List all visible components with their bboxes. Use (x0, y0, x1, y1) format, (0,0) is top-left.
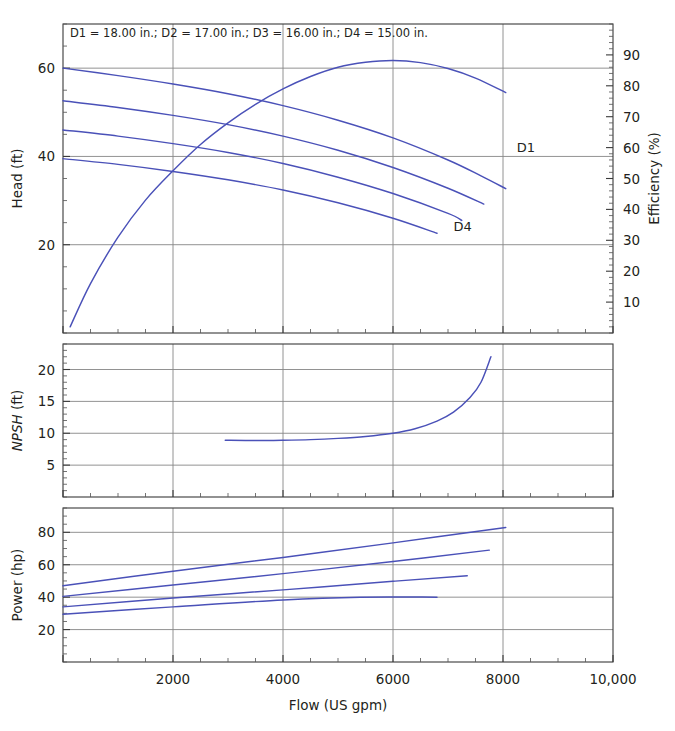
x-tick-label: 6000 (376, 671, 410, 687)
y2-tick-label: 90 (623, 47, 640, 63)
y-axis-title: Head (ft) (9, 149, 25, 209)
curve-d1-head (63, 68, 506, 189)
y2-tick-label: 20 (623, 263, 640, 279)
curve-d4-head (63, 159, 437, 234)
y2-tick-label: 40 (623, 201, 640, 217)
panel-npsh: 5101520NPSH (ft) (9, 344, 613, 497)
panel-power: 20406080Power (hp)200040006000800010,000… (9, 508, 637, 713)
y-axis-title: Power (hp) (9, 549, 25, 622)
y-tick-label: 20 (38, 237, 55, 253)
plot-frame (63, 24, 613, 333)
y2-tick-label: 30 (623, 232, 640, 248)
y-tick-label: 40 (38, 148, 55, 164)
pump-performance-figure: 204060Head (ft)102030405060708090Efficie… (0, 0, 675, 731)
y-tick-label: 20 (38, 622, 55, 638)
y2-tick-label: 10 (623, 294, 640, 310)
y-tick-label: 60 (38, 60, 55, 76)
x-axis-title: Flow (US gpm) (289, 697, 388, 713)
y-tick-label: 5 (46, 457, 55, 473)
panel-head-efficiency: 204060Head (ft)102030405060708090Efficie… (9, 24, 662, 333)
curve-label-d4: D4 (454, 219, 472, 234)
x-tick-label: 2000 (156, 671, 190, 687)
diameter-note: D1 = 18.00 in.; D2 = 17.00 in.; D3 = 16.… (70, 26, 428, 40)
x-tick-label: 8000 (486, 671, 520, 687)
y-axis-title: NPSH (ft) (9, 390, 25, 452)
y-tick-label: 15 (38, 393, 55, 409)
y-tick-label: 80 (38, 524, 55, 540)
y2-axis-title: Efficiency (%) (646, 132, 662, 225)
x-tick-label: 10,000 (589, 671, 636, 687)
y2-tick-label: 50 (623, 171, 640, 187)
y2-tick-label: 70 (623, 109, 640, 125)
y2-tick-label: 80 (623, 78, 640, 94)
plot-frame (63, 344, 613, 497)
curve-d3-power (63, 576, 467, 607)
curve-d2-power (63, 550, 489, 596)
y2-tick-label: 60 (623, 140, 640, 156)
curve-label-d1: D1 (517, 140, 535, 155)
x-tick-label: 4000 (266, 671, 300, 687)
y-tick-label: 40 (38, 589, 55, 605)
y-tick-label: 10 (38, 425, 55, 441)
y-tick-label: 60 (38, 557, 55, 573)
pump-curves-chart: 204060Head (ft)102030405060708090Efficie… (0, 0, 675, 731)
curve-efficiency (70, 60, 506, 326)
curve-d3-head (63, 130, 462, 221)
y-tick-label: 20 (38, 362, 55, 378)
curve-d4-power (63, 597, 437, 614)
